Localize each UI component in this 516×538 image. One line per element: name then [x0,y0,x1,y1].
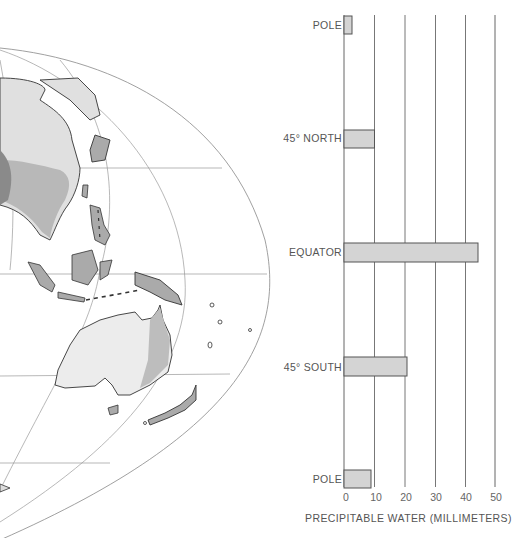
bar-45-south [344,357,407,376]
category-label-equator: EQUATOR [280,246,342,258]
category-label-45-south: 45° SOUTH [280,361,342,373]
category-label-north-pole: POLE [280,19,342,31]
bar-chart-plot [280,0,516,538]
bar-equator [344,243,478,262]
category-label-45-north: 45° NORTH [280,132,342,144]
bar-45-north [344,130,375,148]
x-tick-0: 0 [336,491,356,503]
world-map-asia-pacific [0,0,300,538]
x-axis-title: PRECIPITABLE WATER (MILLIMETERS) [305,512,515,524]
x-tick-30: 30 [426,491,446,503]
x-tick-50: 50 [486,491,506,503]
x-tick-20: 20 [396,491,416,503]
category-label-south-pole: POLE [280,473,342,485]
precipitable-water-chart: POLE 45° NORTH EQUATOR 45° SOUTH POLE 0 … [280,0,516,538]
bar-north-pole [344,16,352,34]
bar-south-pole [344,470,371,488]
x-tick-10: 10 [366,491,386,503]
x-tick-40: 40 [456,491,476,503]
